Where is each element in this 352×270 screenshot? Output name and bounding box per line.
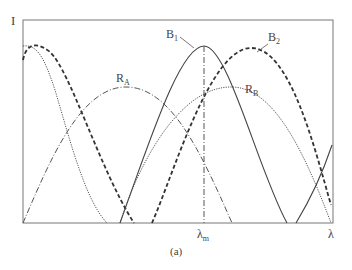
interference-diagram: I B1 B2 RA RB λm λ (a) [0, 0, 352, 270]
curve-b1 [120, 46, 332, 223]
x-axis-label: λ [328, 227, 334, 241]
curve-b2 [23, 45, 331, 223]
b2-label: B2 [268, 30, 280, 46]
ra-label: RA [116, 71, 130, 87]
y-axis-label: I [11, 13, 15, 28]
b2-leader [257, 44, 268, 52]
rb-label: RB [245, 82, 258, 98]
curve-rb [23, 46, 331, 223]
lambda-m-tick-label: λm [197, 227, 210, 243]
figure-caption: (a) [170, 245, 183, 258]
plot-frame [23, 20, 333, 223]
b1-label: B1 [166, 27, 178, 43]
b1-leader [180, 37, 194, 48]
